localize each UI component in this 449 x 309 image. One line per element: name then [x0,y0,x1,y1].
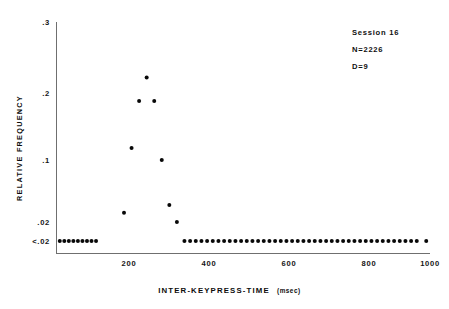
x-tick-label: 800 [362,259,377,268]
data-point [188,239,192,243]
data-point [199,239,203,243]
annotation-line: Session 16 [352,28,399,37]
x-axis-tick-labels: 2004006008001000 [122,259,440,268]
data-point [279,239,283,243]
data-point [290,239,294,243]
data-point [256,239,260,243]
data-point [160,158,164,162]
data-point [137,99,141,103]
data-point [94,239,98,243]
y-tick-label: .3 [42,18,50,27]
x-tick-label: 1000 [420,259,440,268]
x-tick-label: 200 [122,259,137,268]
data-point [205,239,209,243]
data-point [194,239,198,243]
data-point [58,239,62,243]
data-point [85,239,89,243]
figure-container: .3.2.1.02<.02 2004006008001000 RELATIVE … [0,0,449,309]
data-point [90,239,94,243]
x-axis-units: (msec) [277,287,301,295]
data-point-group [58,75,428,243]
data-point [313,239,317,243]
y-axis-title: RELATIVE FREQUENCY [15,95,24,201]
data-point [167,203,171,207]
data-point [330,239,334,243]
data-point [284,239,288,243]
data-point [273,239,277,243]
data-point [239,239,243,243]
data-point [62,239,66,243]
data-point [76,239,80,243]
data-point [245,239,249,243]
data-point [318,239,322,243]
data-point [296,239,300,243]
data-point [222,239,226,243]
data-point [347,239,351,243]
data-point [381,239,385,243]
data-point [228,239,232,243]
x-tick-label: 400 [202,259,217,268]
data-point [80,239,84,243]
data-point [369,239,373,243]
data-point [182,239,186,243]
data-point [152,99,156,103]
scatter-plot: .3.2.1.02<.02 2004006008001000 RELATIVE … [0,0,449,309]
data-point [415,239,419,243]
x-axis-title: INTER-KEYPRESS-TIME [158,286,270,295]
data-point [364,239,368,243]
data-point [307,239,311,243]
data-point [67,239,71,243]
data-point [358,239,362,243]
y-tick-label: .02 [37,218,50,227]
data-point [175,220,179,224]
y-tick-label: <.02 [32,237,50,246]
y-tick-label: .1 [42,156,50,165]
data-point [122,211,126,215]
annotation-block: Session 16N=2226D=9 [352,28,399,71]
data-point [398,239,402,243]
data-point [352,239,356,243]
data-point [130,146,134,150]
data-point [267,239,271,243]
data-point [324,239,328,243]
data-point [216,239,220,243]
annotation-line: D=9 [352,62,368,71]
data-point [386,239,390,243]
y-axis-tick-labels: .3.2.1.02<.02 [32,18,50,246]
data-point [403,239,407,243]
data-point [409,239,413,243]
data-point [250,239,254,243]
data-point [233,239,237,243]
annotation-line: N=2226 [352,45,383,54]
data-point [211,239,215,243]
data-point [375,239,379,243]
data-point [145,75,149,79]
data-point [424,239,428,243]
y-tick-label: .2 [42,89,50,98]
data-point [392,239,396,243]
data-point [301,239,305,243]
data-point [341,239,345,243]
data-point [262,239,266,243]
data-point [71,239,75,243]
data-point [335,239,339,243]
x-tick-label: 600 [282,259,297,268]
